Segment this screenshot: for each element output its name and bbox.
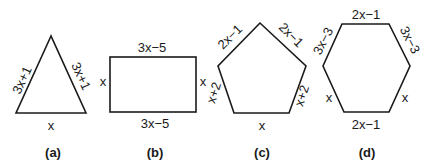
figure-d-caption: (d) xyxy=(359,145,376,160)
polygons-diagram: 3x+1 3x+1 x (a) 3x−5 3x−5 x x (b) 2x−1 2… xyxy=(0,0,428,168)
pentagon-lower-right-label: x+2 xyxy=(291,83,312,108)
figure-c-caption: (c) xyxy=(254,145,270,160)
rectangle-left-label: x xyxy=(100,74,107,89)
hexagon-top-label: 2x−1 xyxy=(352,7,381,22)
figure-d-hexagon: 2x−1 3x−3 3x−3 x x 2x−1 (d) xyxy=(310,7,423,160)
hexagon-lower-right-label: x xyxy=(402,90,409,105)
hexagon-bottom-label: 2x−1 xyxy=(352,117,381,132)
hexagon-upper-left-label: 3x−3 xyxy=(310,25,336,57)
triangle-bottom-label: x xyxy=(48,118,55,133)
pentagon-upper-right-label: 2x−1 xyxy=(276,19,307,50)
hexagon-shape xyxy=(323,24,410,112)
hexagon-lower-left-label: x xyxy=(326,90,333,105)
figure-c-pentagon: 2x−1 2x−1 x+2 x+2 x (c) xyxy=(203,19,312,160)
rectangle-top-label: 3x−5 xyxy=(138,40,167,55)
figure-b-rectangle: 3x−5 3x−5 x x (b) xyxy=(100,40,207,160)
figure-b-caption: (b) xyxy=(147,145,164,160)
figure-a-triangle: 3x+1 3x+1 x (a) xyxy=(9,36,94,160)
figure-a-caption: (a) xyxy=(45,145,61,160)
triangle-right-label: 3x+1 xyxy=(68,60,94,92)
pentagon-bottom-label: x xyxy=(259,118,266,133)
rectangle-shape xyxy=(110,57,196,112)
hexagon-upper-right-label: 3x−3 xyxy=(397,24,423,56)
rectangle-right-label: x xyxy=(200,74,207,89)
rectangle-bottom-label: 3x−5 xyxy=(141,116,170,131)
pentagon-lower-left-label: x+2 xyxy=(203,80,224,105)
pentagon-upper-left-label: 2x−1 xyxy=(214,21,245,52)
